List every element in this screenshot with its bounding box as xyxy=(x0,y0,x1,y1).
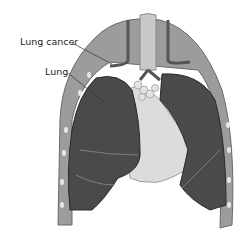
label-lung: Lung xyxy=(45,67,68,77)
lung-anatomy-figure: Lung cancer Lung xyxy=(0,0,244,237)
trachea xyxy=(140,14,156,71)
label-lung-cancer: Lung cancer xyxy=(20,37,78,47)
